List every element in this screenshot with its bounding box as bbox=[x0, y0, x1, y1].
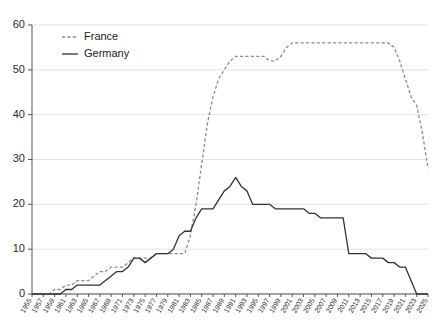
y-axis-ticks: 0102030405060 bbox=[13, 18, 32, 299]
y-tick-label: 10 bbox=[13, 242, 25, 254]
y-tick-label: 30 bbox=[13, 152, 25, 164]
x-tick-label: 2009 bbox=[325, 297, 339, 314]
y-tick-label: 20 bbox=[13, 197, 25, 209]
y-tick-label: 40 bbox=[13, 108, 25, 120]
y-tick-label: 60 bbox=[13, 18, 25, 30]
legend-label-france: France bbox=[84, 30, 118, 42]
y-tick-label: 0 bbox=[19, 287, 25, 299]
chart-legend: France Germany bbox=[62, 30, 130, 59]
chart-container: 0102030405060 19551957195919611963196519… bbox=[0, 0, 432, 336]
y-tick-label: 50 bbox=[13, 63, 25, 75]
x-axis-ticks: 1955195719591961196319651967196919711973… bbox=[19, 294, 429, 314]
series-line-germany bbox=[32, 177, 428, 294]
line-chart: 0102030405060 19551957195919611963196519… bbox=[0, 0, 432, 336]
data-series bbox=[32, 43, 428, 294]
gridlines bbox=[32, 25, 428, 294]
legend-label-germany: Germany bbox=[84, 47, 130, 59]
x-tick-label: 2025 bbox=[415, 297, 429, 314]
